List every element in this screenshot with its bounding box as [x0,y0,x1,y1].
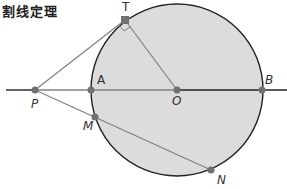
label-N: N [217,173,226,187]
point-A [88,87,95,94]
point-B [259,87,266,94]
point-N [208,167,215,174]
label-O: O [172,94,181,108]
point-P [32,87,39,94]
label-T: T [121,0,130,14]
label-A: A [97,73,106,87]
label-M: M [83,119,94,133]
point-T [121,16,129,24]
label-B: B [265,73,273,87]
label-P: P [31,97,39,111]
secant-diagram: T A P O B M N [0,0,287,189]
point-O [174,87,181,94]
